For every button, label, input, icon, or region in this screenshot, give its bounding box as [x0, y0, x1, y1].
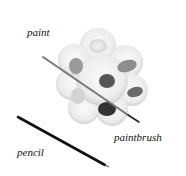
pencil [18, 117, 109, 167]
paint-palette [56, 28, 148, 126]
label-pencil: pencil [17, 147, 44, 158]
label-paint: paint [27, 27, 50, 38]
label-paintbrush: paintbrush [114, 132, 162, 143]
